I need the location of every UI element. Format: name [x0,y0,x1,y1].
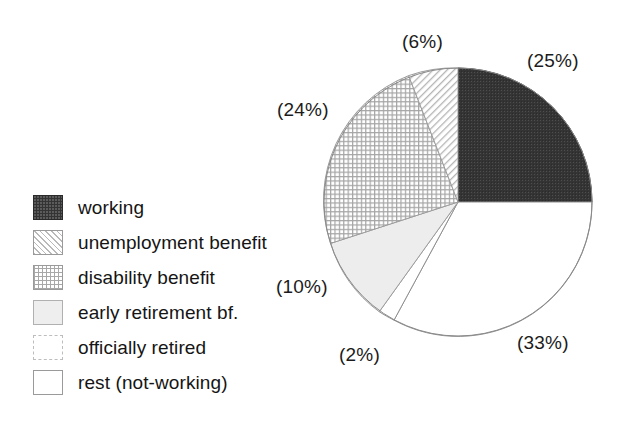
pie-label-officially-retired: (2%) [339,344,380,365]
legend-item-early-retirement[interactable]: early retirement bf. [33,295,298,330]
legend: working unemployment benefit disability … [33,190,298,400]
legend-item-working[interactable]: working [33,190,298,225]
legend-label-disability-benefit: disability benefit [78,267,215,289]
legend-item-unemployment-benefit[interactable]: unemployment benefit [33,225,298,260]
legend-item-officially-retired[interactable]: officially retired [33,330,298,365]
pie-label-rest-not-working: (33%) [517,332,569,353]
legend-swatch-unemployment-benefit-icon [33,230,63,255]
legend-swatch-early-retirement-icon [33,300,63,325]
legend-swatch-working-icon [33,195,63,220]
pie-label-disability-benefit: (24%) [277,99,329,120]
legend-item-disability-benefit[interactable]: disability benefit [33,260,298,295]
legend-label-working: working [78,197,144,219]
legend-swatch-disability-benefit-icon [33,265,63,290]
legend-label-unemployment-benefit: unemployment benefit [78,232,267,254]
pie-label-working: (25%) [527,50,579,71]
legend-label-rest-not-working: rest (not-working) [78,372,228,394]
pie-slice-working[interactable] [458,68,592,202]
legend-label-officially-retired: officially retired [78,337,206,359]
legend-item-rest-not-working[interactable]: rest (not-working) [33,365,298,400]
legend-swatch-officially-retired-icon [33,335,63,360]
pie-label-unemployment-benefit: (6%) [402,31,443,52]
legend-swatch-rest-not-working-icon [33,370,63,395]
pie-chart-figure: (6%) (25%) (24%) (10%) (2%) (33%) workin… [0,0,624,438]
legend-label-early-retirement: early retirement bf. [78,302,238,324]
